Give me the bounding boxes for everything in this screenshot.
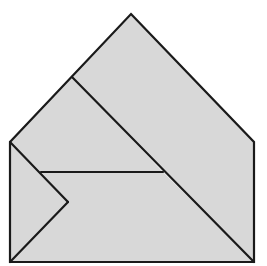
dissection-diagram: House-shaped pentagon dissected into fou…: [0, 0, 267, 266]
diagram-canvas: [0, 0, 267, 266]
